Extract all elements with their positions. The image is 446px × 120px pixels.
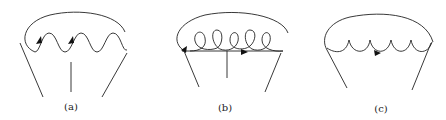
left-leg-c	[327, 50, 347, 88]
outer-arc-b	[177, 12, 288, 50]
left-leg-b	[184, 51, 199, 87]
outer-arc-c	[325, 14, 433, 50]
wavy-photon-line-a	[35, 33, 127, 52]
panel-b: (b)	[177, 12, 288, 113]
left-leg-a	[20, 43, 43, 97]
right-leg-b	[265, 53, 281, 92]
scalloped-line-c	[327, 40, 432, 52]
arrow-icon-a1	[36, 36, 42, 44]
right-leg-a	[102, 53, 127, 97]
panel-a: (a)	[20, 12, 127, 112]
panel-c: (c)	[325, 14, 433, 114]
arrow-icon-a2	[68, 36, 74, 44]
arrow-icon-b2	[241, 49, 248, 55]
panel-label-a: (a)	[64, 101, 78, 112]
feynman-diagram-figure: (a) (b) (c)	[0, 0, 446, 120]
panel-label-b: (b)	[218, 102, 232, 113]
curly-gluon-line-b	[190, 30, 283, 51]
panel-label-c: (c)	[374, 103, 388, 114]
right-leg-c	[412, 43, 431, 90]
